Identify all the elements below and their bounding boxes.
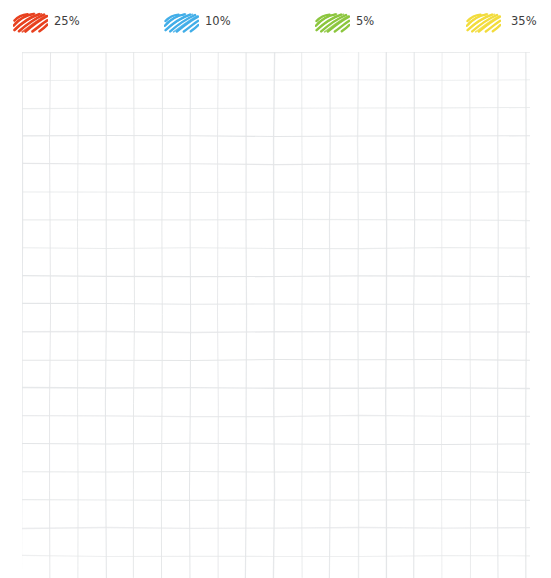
chart-canvas: 25%	[0, 0, 551, 578]
legend-item-1[interactable]: 10%	[164, 9, 231, 35]
chart-title-clipped	[0, 0, 551, 3]
plot-area	[22, 52, 530, 578]
legend-item-2[interactable]: 5%	[315, 9, 374, 35]
scribble-swatch-icon	[315, 12, 350, 33]
scribble-swatch-icon	[466, 12, 501, 33]
legend-item-0[interactable]: 25%	[13, 9, 80, 35]
scribble-swatch-icon	[13, 12, 48, 33]
scribble-swatch-icon	[164, 12, 199, 33]
legend-item-3[interactable]: 35%	[466, 9, 537, 35]
chart-legend: 25%	[0, 9, 551, 37]
grid-lines	[22, 52, 530, 578]
legend-item-label: 35%	[511, 16, 537, 28]
legend-item-label: 10%	[205, 16, 231, 28]
legend-item-label: 25%	[54, 16, 80, 28]
legend-item-label: 5%	[356, 16, 374, 28]
